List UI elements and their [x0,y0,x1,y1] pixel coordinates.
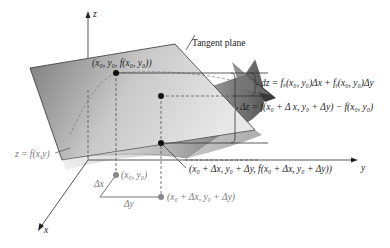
point-f-shifted-label: (x₀ + Δx, y₀ + Δy, f(x₀ + Δx, y₀ + Δy)) [189,165,332,175]
delta-z-formula: Δz = f(x₀ + Δ x, y₀ + Δy) − f(x₀, y₀) [240,103,373,113]
z-axis-label: z [93,10,97,20]
delta-y-label: Δy [124,200,134,210]
x-axis [38,160,88,231]
point-x0-y0 [113,172,119,178]
point-shifted-base [158,194,164,200]
point-tangent [158,93,164,99]
point-f-x0-y0 [113,70,119,76]
y-axis-label: y [361,164,365,174]
surface-label: z = f(x,y) [15,150,50,160]
dz-formula: dz = fₓ(x₀, y₀)Δx + fᵧ(x₀, y₀)Δy [261,79,374,89]
delta-x-label: Δx [94,180,104,190]
base-point-label: (x₀, y₀) [121,171,147,181]
tangent-plane-label: Tangent plane [192,39,245,49]
x-axis-label: x [44,226,48,236]
shifted-base-label: (x₀ + Δx, y₀ + Δy) [167,193,235,203]
point-f-x0-y0-label: (x₀, y₀, f(x₀, y₀)) [92,59,152,69]
point-f-shifted [158,140,164,146]
differential-diagram: z y x Tangent plane z = f(x,y) (x₀, y₀, … [0,0,390,248]
